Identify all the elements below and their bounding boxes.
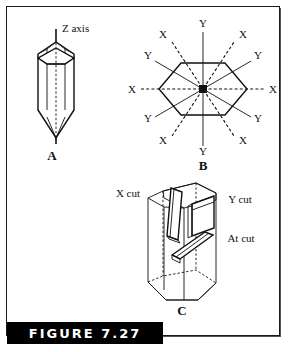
axis-label-y-upper-right: Y	[254, 49, 262, 61]
at-cut-label: At cut	[227, 232, 254, 244]
figure-diagram: Z axis A Y X X Y Y X X Y	[0, 0, 289, 352]
axis-label-y-lower-right: Y	[254, 112, 262, 124]
center-point-marker	[199, 85, 207, 93]
y-cut-label: Y cut	[228, 193, 252, 205]
axis-label-x-left: X	[128, 83, 136, 95]
figure-caption-bar: FIGURE 7.27	[7, 322, 163, 344]
panel-label-a: A	[47, 148, 57, 163]
panel-b-group: Y X X Y Y X X Y Y X X Y B	[128, 17, 277, 173]
x-cut-label: X cut	[116, 187, 140, 199]
panel-label-b: B	[199, 158, 208, 173]
axis-label-y-lower-left: Y	[144, 112, 152, 124]
axis-label-x-right: X	[269, 83, 277, 95]
axis-label-x-lower-right: X	[239, 134, 247, 146]
panel-c-group: X cut Y cut At cut C	[116, 183, 255, 318]
panel-label-c: C	[177, 303, 186, 318]
figure-caption-label: FIGURE 7.27	[29, 326, 141, 341]
axis-label-y-top: Y	[199, 17, 207, 29]
z-axis-label: Z axis	[62, 22, 89, 34]
axis-label-y-bottom: Y	[199, 145, 207, 157]
figure-container: Z axis A Y X X Y Y X X Y	[0, 0, 289, 352]
axis-label-x-lower-left: X	[159, 134, 167, 146]
axis-label-y-upper-left: Y	[144, 49, 152, 61]
panel-a-group: Z axis A	[38, 22, 89, 163]
axis-label-x-upper-left: X	[159, 28, 167, 40]
axis-label-x-upper-right: X	[239, 28, 247, 40]
